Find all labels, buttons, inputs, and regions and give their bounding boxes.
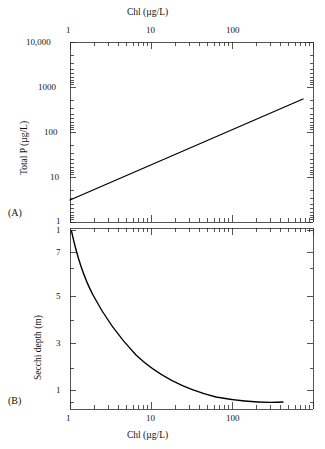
panel-b-left-ticks: [70, 230, 76, 402]
panel-a-top-ticks: [70, 42, 313, 49]
panel-b-right-ticks: [307, 230, 313, 402]
panel-a-frame: [70, 42, 313, 222]
panel-b-bottom-ticks: [70, 402, 313, 409]
panel-b-data-curve: [72, 231, 284, 402]
panel-b-top-ticks: [70, 228, 313, 235]
panel-a-left-ticks: [70, 42, 76, 222]
panel-a-data-line: [70, 99, 303, 200]
panel-a-bottom-ticks: [70, 215, 313, 222]
panel-a-right-ticks: [307, 42, 313, 222]
figure-root: Chl (µg/L) 1 10 100 10,000 1000 100 10 1…: [0, 0, 325, 449]
plot-canvas: [0, 0, 325, 449]
